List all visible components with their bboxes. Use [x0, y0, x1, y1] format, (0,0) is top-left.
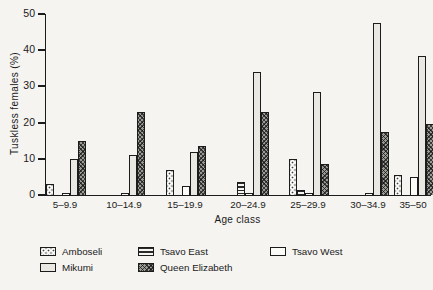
bar-amboseli — [394, 175, 402, 195]
y-tick-label: 40 — [13, 43, 35, 55]
bar-queen-elizabeth — [78, 141, 86, 195]
bar-tsavo-east — [237, 182, 245, 195]
bar-queen-elizabeth — [321, 164, 329, 195]
y-tick — [38, 13, 45, 14]
y-tick — [38, 49, 45, 50]
legend-label: Tsavo East — [160, 246, 208, 257]
y-tick-label: 0 — [13, 188, 35, 200]
bar-tsavo-west — [365, 193, 373, 195]
bar-tsavo-east — [297, 190, 305, 195]
x-tick-label: 30–34.9 — [350, 199, 385, 210]
bar-mikumi — [418, 56, 426, 195]
y-tick — [38, 85, 45, 86]
y-tick-label: 50 — [13, 7, 35, 19]
bar-queen-elizabeth — [137, 112, 145, 195]
bar-amboseli — [289, 159, 297, 195]
legend-label: Tsavo West — [292, 246, 342, 257]
legend-item-mikumi: Mikumi — [40, 262, 93, 273]
bar-queen-elizabeth — [261, 112, 269, 195]
x-tick-label: 35–50 — [399, 199, 426, 210]
legend-swatch-crosshatch — [138, 263, 154, 272]
y-tick-label: 30 — [13, 79, 35, 91]
bar-mikumi — [373, 23, 381, 195]
bar-queen-elizabeth — [381, 132, 389, 195]
bar-queen-elizabeth — [426, 124, 433, 195]
figure-container: Tuskless females (%) 01020304050 Age cla… — [0, 0, 433, 290]
legend-label: Mikumi — [62, 262, 93, 273]
bar-amboseli — [166, 170, 174, 195]
bar-tsavo-west — [62, 193, 70, 195]
bar-group-3 — [166, 146, 206, 195]
bar-tsavo-west — [182, 186, 190, 195]
x-tick-label: 15–19.9 — [167, 199, 202, 210]
legend-swatch-dots — [40, 247, 56, 256]
x-tick-label: 25–29.9 — [290, 199, 325, 210]
bar-group-4 — [229, 72, 269, 195]
legend-item-tsavo-west: Tsavo West — [270, 246, 342, 257]
bar-tsavo-west — [410, 177, 418, 195]
y-tick — [38, 158, 45, 159]
x-tick-label: 20–24.9 — [230, 199, 265, 210]
bar-mikumi — [129, 155, 137, 195]
x-tick-label: 10–14.9 — [106, 199, 141, 210]
bar-group-5 — [289, 92, 329, 195]
y-tick — [38, 122, 45, 123]
bar-group-7 — [394, 56, 433, 195]
bar-queen-elizabeth — [198, 146, 206, 195]
bar-tsavo-west — [305, 193, 313, 195]
legend-item-queen-elizabeth: Queen Elizabeth — [138, 262, 232, 273]
bar-amboseli — [46, 184, 54, 195]
bar-group-2 — [105, 112, 145, 195]
legend-swatch-white — [270, 247, 286, 256]
legend-item-tsavo-east: Tsavo East — [138, 246, 208, 257]
bar-group-1 — [46, 141, 86, 195]
bar-mikumi — [313, 92, 321, 195]
bar-mikumi — [253, 72, 261, 195]
bar-mikumi — [70, 159, 78, 195]
bar-tsavo-west — [121, 193, 129, 195]
y-tick-label: 10 — [13, 152, 35, 164]
y-tick-label: 20 — [13, 116, 35, 128]
bar-group-6 — [349, 23, 389, 195]
x-tick-label: 5–9.9 — [53, 199, 78, 210]
bar-tsavo-west — [245, 193, 253, 195]
legend-swatch-hstripes — [138, 247, 154, 256]
plot-area: 01020304050 — [45, 14, 431, 196]
bar-mikumi — [190, 152, 198, 195]
legend-label: Amboseli — [62, 246, 102, 257]
legend-item-amboseli: Amboseli — [40, 246, 102, 257]
y-tick — [38, 194, 45, 195]
x-axis-title: Age class — [45, 214, 430, 225]
legend-swatch-gray — [40, 263, 56, 272]
legend-label: Queen Elizabeth — [160, 262, 232, 273]
